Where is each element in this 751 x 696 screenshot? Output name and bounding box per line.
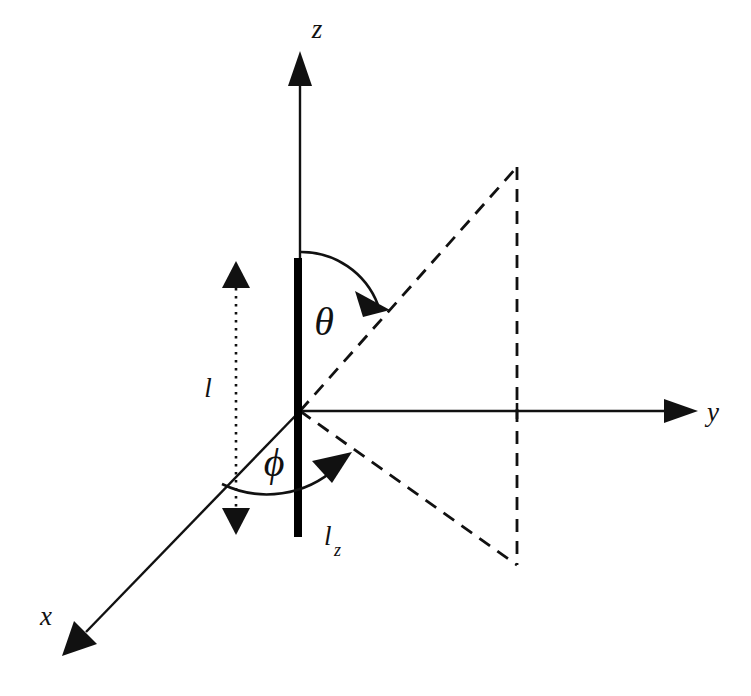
figure-container: z y x θ ϕ l l z: [0, 0, 751, 696]
length-label: l: [204, 373, 212, 403]
z-axis-label: z: [311, 14, 323, 44]
phi-angle-group: [222, 452, 352, 494]
y-axis-arrowhead: [664, 399, 698, 423]
phi-label: ϕ: [264, 440, 285, 485]
phi-arrowhead: [312, 452, 352, 483]
dashed-construction-group: [300, 167, 517, 565]
length-marker-top-arrowhead: [222, 261, 250, 288]
dashed-lower-ray: [300, 411, 517, 565]
bottom-caption-strip: [0, 682, 751, 696]
dipole-length-label-subscript: z: [333, 540, 341, 560]
length-marker-group: [222, 261, 250, 535]
theta-label: θ: [314, 299, 334, 344]
dipole-length-label: l z: [324, 521, 341, 560]
z-axis-arrowhead: [288, 51, 312, 86]
theta-arc: [300, 252, 378, 305]
axes-group: [62, 51, 698, 656]
spherical-coordinate-diagram: z y x θ ϕ l l z: [0, 0, 751, 696]
dipole-bar: [294, 258, 302, 537]
x-axis-label: x: [39, 601, 52, 631]
y-axis-label: y: [704, 397, 719, 427]
length-marker-bottom-arrowhead: [222, 508, 250, 535]
dipole-length-label-base: l: [324, 521, 332, 551]
dashed-upper-ray: [300, 167, 517, 411]
